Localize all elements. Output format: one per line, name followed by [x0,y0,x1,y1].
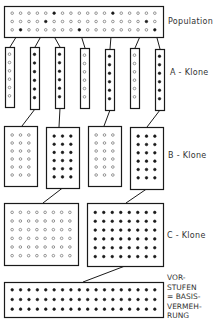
filled-dot [108,80,111,83]
vorstufen-box [5,283,164,318]
open-dot [36,12,39,15]
filled-dot [158,97,161,100]
filled-dot [86,308,89,311]
filled-dot [111,255,114,258]
open-dot [154,12,157,15]
open-dot [137,12,140,15]
open-dot [83,79,86,82]
open-dot [19,142,22,145]
filled-dot [28,298,31,301]
filled-dot [136,229,139,232]
open-dot [112,29,115,32]
b-clone-box [47,128,80,189]
open-dot [95,174,98,177]
filled-dot [53,12,56,15]
filled-dot [158,72,161,75]
filled-dot [19,289,22,292]
open-dot [60,246,63,249]
filled-dot [95,289,98,292]
filled-dot [53,151,56,154]
open-dot [36,20,39,23]
filled-dot [154,152,157,155]
open-dot [120,12,123,15]
open-dot [11,228,14,231]
filled-dot [44,298,47,301]
filled-dot [53,289,56,292]
filled-dot [94,238,97,241]
open-dot [11,174,14,177]
open-dot [19,20,22,23]
filled-dot [153,211,156,214]
filled-dot [137,177,140,180]
a-clone-column [106,50,115,111]
connector-line [59,108,60,127]
filled-dot [128,308,131,311]
open-dot [44,29,47,32]
filled-dot [136,255,139,258]
open-dot [28,12,31,15]
filled-dot [154,289,157,292]
a-clone-rect [156,50,165,111]
open-dot [95,134,98,137]
filled-dot [61,159,64,162]
open-dot [19,174,22,177]
open-dot [19,211,22,214]
open-dot [83,71,86,74]
filled-dot [111,211,114,214]
filled-dot [128,255,131,258]
filled-dot [70,167,73,170]
open-dot [27,228,30,231]
open-dot [44,211,47,214]
filled-dot [70,159,73,162]
open-dot [128,20,131,23]
open-dot [28,174,31,177]
filled-dot [11,298,14,301]
filled-dot [154,177,157,180]
filled-dot [112,12,115,15]
filled-dot [136,238,139,241]
filled-dot [108,89,111,92]
open-dot [133,62,136,65]
filled-dot [44,308,47,311]
filled-dot [153,229,156,232]
vorstufen-label: VOR- STUFEN = BASIS- VERMEH- RUNG [167,273,202,321]
open-dot [19,166,22,169]
filled-dot [128,238,131,241]
filled-dot [53,176,56,179]
open-dot [27,254,30,257]
open-dot [154,20,157,23]
open-dot [19,12,22,15]
filled-dot [158,89,161,92]
open-dot [112,20,115,23]
open-dot [11,254,14,257]
open-dot [133,54,136,57]
connector-line [83,266,125,282]
filled-dot [61,308,64,311]
filled-dot [61,289,64,292]
filled-dot [58,70,61,73]
filled-dot [128,246,131,249]
a-clone-rect [106,50,115,111]
open-dot [44,237,47,240]
filled-dot [11,308,14,311]
open-dot [128,29,131,32]
open-dot [8,78,11,81]
filled-dot [70,135,73,138]
filled-dot [119,220,122,223]
open-dot [11,220,14,223]
open-dot [95,158,98,161]
open-dot [103,158,106,161]
filled-dot [137,152,140,155]
filled-dot [158,80,161,83]
filled-dot [137,168,140,171]
filled-dot [102,229,105,232]
filled-dot [128,211,131,214]
filled-dot [28,289,31,292]
open-dot [60,211,63,214]
open-dot [19,228,22,231]
open-dot [27,246,30,249]
filled-dot [33,96,36,99]
open-dot [60,220,63,223]
population-box [5,7,164,38]
filled-dot [136,246,139,249]
